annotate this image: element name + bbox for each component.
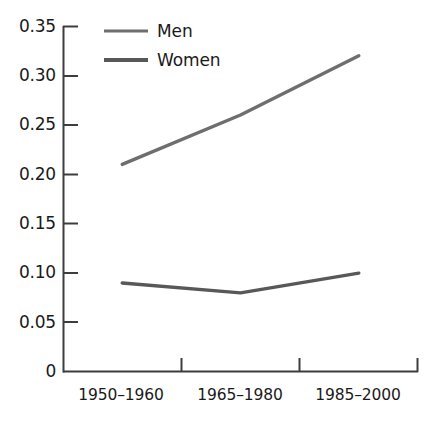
plot-area — [0, 0, 434, 433]
y-axis-ticks — [63, 27, 78, 323]
series-line-women — [122, 273, 359, 293]
line-chart: 0.35 0.30 0.25 0.20 0.15 0.10 0.05 0 195… — [0, 0, 434, 433]
axis-lines — [63, 26, 418, 373]
x-axis-ticks — [182, 358, 418, 372]
series-line-men — [122, 56, 359, 165]
